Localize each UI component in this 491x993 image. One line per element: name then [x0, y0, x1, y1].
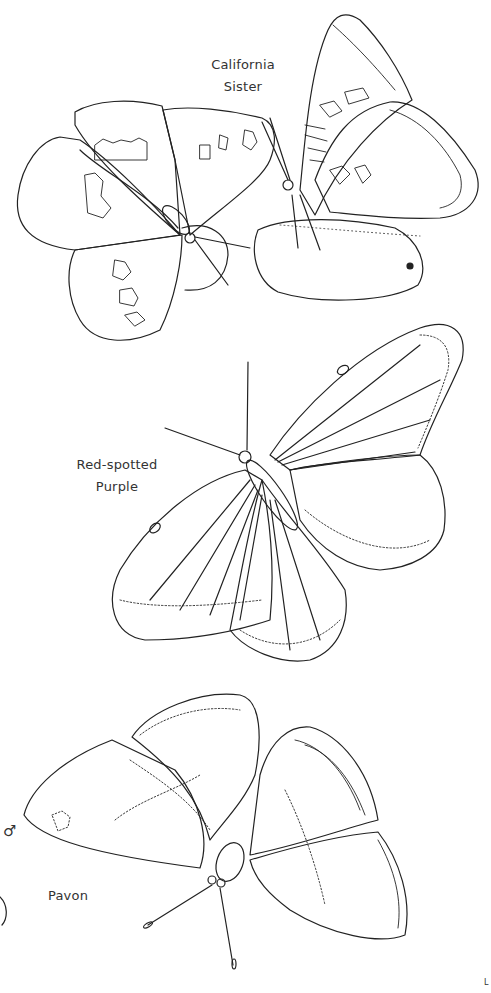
- label-line-1: Red-spotted: [72, 454, 162, 476]
- label-line-2: Purple: [72, 476, 162, 498]
- pavon-drawing: [0, 694, 407, 969]
- california-sister-open-drawing: [17, 101, 274, 340]
- male-symbol-icon: ♂: [3, 822, 16, 840]
- red-spotted-purple-drawing: [112, 325, 463, 661]
- label-red-spotted-purple: Red-spotted Purple: [72, 454, 162, 498]
- label-line-1: California: [200, 54, 286, 76]
- label-pavon: Pavon: [48, 885, 98, 907]
- label-line-2: Sister: [200, 76, 286, 98]
- label-california-sister: California Sister: [200, 54, 286, 98]
- california-sister-on-rock-drawing: [254, 15, 478, 300]
- corner-mark: L: [484, 978, 488, 987]
